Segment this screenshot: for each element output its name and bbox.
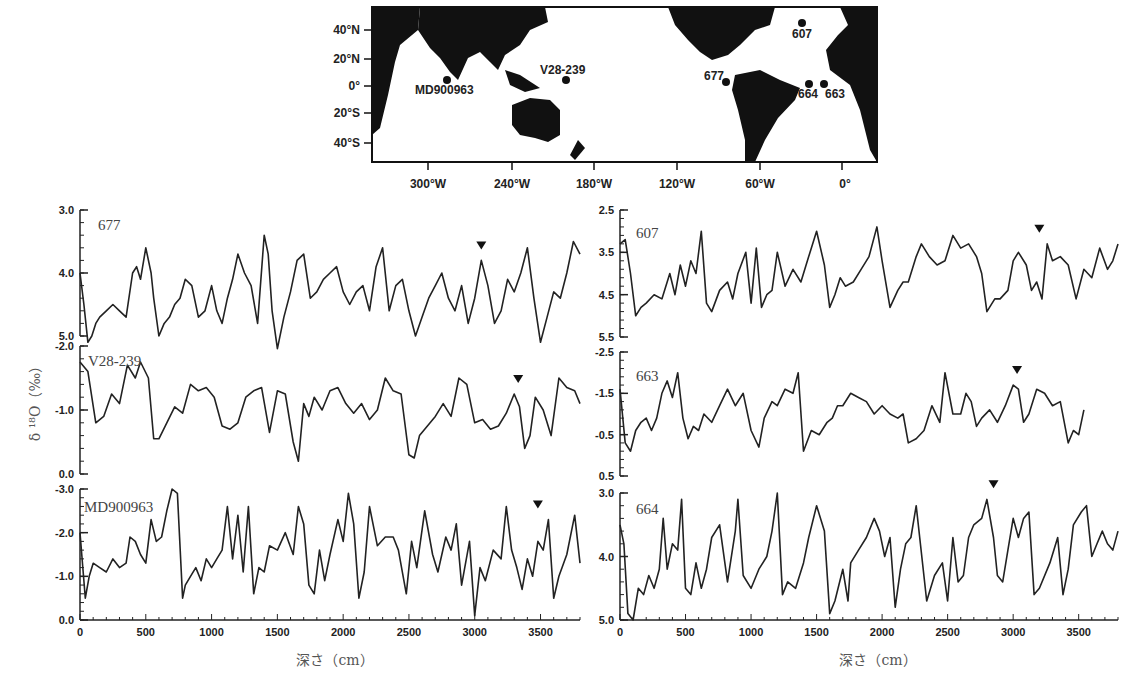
lon-tick-label: 60°W [745, 177, 775, 191]
y-tick-label: 3.5 [599, 246, 614, 258]
panel-677: 3.04.05.0677 [59, 204, 580, 349]
lon-tick-label: 120°W [659, 177, 696, 191]
longitude-axis: 300°W 240°W 180°W 120°W 60°W 0° [410, 162, 851, 191]
y-tick-label: 4.0 [599, 551, 614, 563]
y-tick-label: -1.5 [595, 387, 614, 399]
x-tick-label: 2000 [870, 626, 894, 638]
core-label: MD900963 [84, 499, 153, 515]
core-label: 677 [98, 217, 121, 233]
core-panels: 3.04.05.0677-2.0-1.00.0V28-239-3.0-2.0-1… [55, 204, 1118, 638]
panel-md900963: -3.0-2.0-1.00.00500100015002000250030003… [55, 483, 580, 638]
core-label: 664 [636, 501, 659, 517]
latitude-axis: 40°N 20°N 0° 20°S 40°S [333, 23, 372, 150]
x-tick-label: 1000 [199, 626, 223, 638]
y-tick-label: 3.0 [59, 204, 74, 216]
lat-tick-label: 40°S [334, 136, 360, 150]
y-axis-title: δ ¹⁸O（‰） [27, 359, 43, 441]
x-tick-label: 0 [617, 626, 623, 638]
y-tick-label: -2.0 [55, 527, 74, 539]
site-label: 664 [798, 87, 818, 101]
y-tick-label: 2.5 [599, 204, 614, 216]
triangle-marker-icon [533, 501, 543, 509]
site-marker [798, 19, 806, 27]
lat-tick-label: 0° [349, 79, 361, 93]
site-marker [562, 76, 570, 84]
x-tick-label: 3000 [462, 626, 486, 638]
lat-tick-label: 40°N [333, 23, 360, 37]
lon-tick-label: 180°W [576, 177, 613, 191]
lat-tick-label: 20°N [333, 52, 360, 66]
site-label: 677 [704, 69, 724, 83]
y-tick-label: -2.0 [55, 340, 74, 352]
x-tick-label: 500 [676, 626, 694, 638]
x-tick-label: 1500 [265, 626, 289, 638]
y-tick-label: 0.0 [59, 614, 74, 626]
isotope-series-line [620, 493, 1118, 620]
panel-664: 3.04.05.00500100015002000250030003500664 [599, 480, 1118, 638]
isotope-series-line [620, 373, 1084, 452]
x-tick-label: 2500 [397, 626, 421, 638]
core-label: V28-239 [88, 353, 141, 369]
triangle-marker-icon [513, 375, 523, 383]
lon-tick-label: 300°W [410, 177, 447, 191]
isotope-series-line [80, 362, 580, 461]
y-tick-label: 5.0 [599, 614, 614, 626]
panel-607: 2.53.54.55.5607 [599, 204, 1118, 343]
x-axis-title-left: 深さ（cm） [296, 652, 373, 668]
y-tick-label: -1.0 [55, 404, 74, 416]
lon-tick-label: 240°W [494, 177, 531, 191]
x-tick-label: 500 [137, 626, 155, 638]
x-tick-label: 3000 [1001, 626, 1025, 638]
site-label: 607 [792, 27, 812, 41]
triangle-marker-icon [1034, 225, 1044, 233]
y-tick-label: 0.0 [59, 468, 74, 480]
triangle-marker-icon [989, 480, 999, 488]
x-tick-label: 2500 [935, 626, 959, 638]
y-tick-label: 5.5 [599, 331, 614, 343]
y-tick-label: 3.0 [599, 487, 614, 499]
panel-v28-239: -2.0-1.00.0V28-239 [55, 340, 580, 480]
triangle-marker-icon [1012, 366, 1022, 374]
panel-663: -2.5-1.5-0.50.5663 [595, 346, 1084, 482]
y-tick-label: 0.5 [599, 470, 614, 482]
x-tick-label: 2000 [331, 626, 355, 638]
core-label: 663 [636, 368, 659, 384]
x-tick-label: 1500 [804, 626, 828, 638]
site-label: MD900963 [415, 83, 474, 97]
core-label: 607 [636, 225, 659, 241]
y-tick-label: 4.5 [599, 289, 614, 301]
y-tick-label: 4.0 [59, 267, 74, 279]
y-tick-label: -3.0 [55, 483, 74, 495]
isotope-series-line [80, 235, 580, 348]
y-tick-label: -0.5 [595, 429, 614, 441]
isotope-series-line [80, 489, 580, 616]
y-tick-label: -2.5 [595, 346, 614, 358]
x-tick-label: 1000 [739, 626, 763, 638]
figure: 40°N 20°N 0° 20°S 40°S 300°W 240°W 180°W… [0, 0, 1130, 678]
site-map: 40°N 20°N 0° 20°S 40°S 300°W 240°W 180°W… [333, 7, 877, 191]
x-tick-label: 0 [77, 626, 83, 638]
triangle-marker-icon [476, 241, 486, 249]
site-label: 663 [825, 87, 845, 101]
site-label: V28-239 [540, 63, 586, 77]
x-axis-title-right: 深さ（cm） [839, 652, 916, 668]
x-tick-label: 3500 [528, 626, 552, 638]
x-tick-label: 3500 [1066, 626, 1090, 638]
isotope-series-line [620, 227, 1118, 316]
lon-tick-label: 0° [839, 177, 851, 191]
lat-tick-label: 20°S [334, 106, 360, 120]
y-tick-label: -1.0 [55, 570, 74, 582]
